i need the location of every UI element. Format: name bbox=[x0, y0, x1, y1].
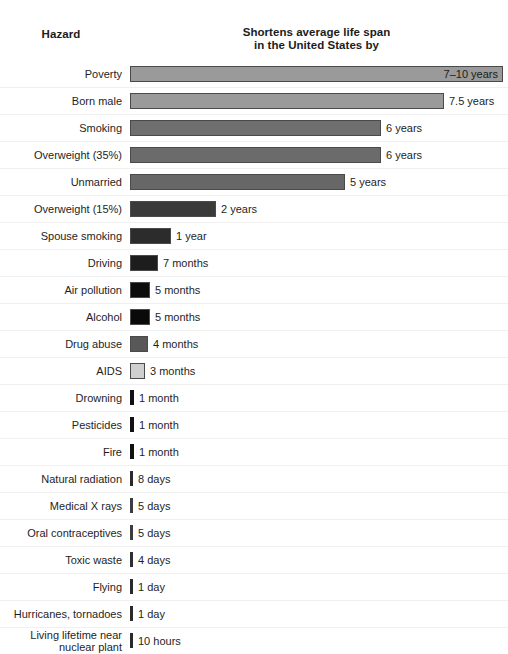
table-row: Fire1 month bbox=[0, 438, 508, 465]
hazard-label: Smoking bbox=[0, 114, 122, 141]
hazard-label: AIDS bbox=[0, 357, 122, 384]
bar-container: 7 months bbox=[130, 249, 208, 276]
bar-container: 1 day bbox=[130, 573, 165, 600]
bar-value-label: 1 day bbox=[138, 608, 165, 620]
chart-rows: Poverty7–10 yearsBorn male7.5 yearsSmoki… bbox=[0, 60, 508, 654]
bar bbox=[130, 363, 145, 379]
bar bbox=[130, 93, 444, 109]
hazard-label: Spouse smoking bbox=[0, 222, 122, 249]
bar-container: 5 days bbox=[130, 492, 170, 519]
bar-value-label: 8 days bbox=[138, 473, 170, 485]
bar-value-label: 6 years bbox=[386, 149, 422, 161]
bar-container: 1 month bbox=[130, 438, 179, 465]
bar bbox=[130, 471, 133, 486]
bar-container: 3 months bbox=[130, 357, 195, 384]
bar-value-label: 7–10 years bbox=[444, 68, 498, 80]
hazard-label: Living lifetime nearnuclear plant bbox=[0, 627, 122, 654]
hazard-label: Born male bbox=[0, 87, 122, 114]
hazard-label: Driving bbox=[0, 249, 122, 276]
bar bbox=[130, 579, 133, 594]
bar-value-label: 3 months bbox=[150, 365, 195, 377]
table-row: Drug abuse4 months bbox=[0, 330, 508, 357]
hazard-label: Pesticides bbox=[0, 411, 122, 438]
bar-container: 5 months bbox=[130, 303, 200, 330]
bar bbox=[130, 255, 158, 271]
bar-value-label: 5 days bbox=[138, 500, 170, 512]
bar bbox=[130, 444, 134, 459]
bar-value-label: 5 months bbox=[155, 311, 200, 323]
hazard-label: Unmarried bbox=[0, 168, 122, 195]
bar-container: 5 years bbox=[130, 168, 386, 195]
bar bbox=[130, 282, 150, 298]
bar-value-label: 1 day bbox=[138, 581, 165, 593]
bar-container: 5 months bbox=[130, 276, 200, 303]
bar-container: 4 days bbox=[130, 546, 170, 573]
hazard-label: Alcohol bbox=[0, 303, 122, 330]
bar bbox=[130, 525, 133, 540]
table-row: Overweight (35%)6 years bbox=[0, 141, 508, 168]
column-header-value-line1: Shortens average life span bbox=[130, 26, 503, 39]
bar-container: 7–10 years bbox=[130, 60, 503, 87]
bar-value-label: 7.5 years bbox=[449, 95, 494, 107]
bar-value-label: 5 months bbox=[155, 284, 200, 296]
bar bbox=[130, 174, 345, 190]
bar bbox=[130, 606, 133, 621]
table-row: AIDS3 months bbox=[0, 357, 508, 384]
bar bbox=[130, 552, 133, 567]
table-row: Driving7 months bbox=[0, 249, 508, 276]
table-row: Born male7.5 years bbox=[0, 87, 508, 114]
hazard-label: Air pollution bbox=[0, 276, 122, 303]
column-header-value: Shortens average life span in the United… bbox=[130, 26, 503, 52]
table-row: Drowning1 month bbox=[0, 384, 508, 411]
table-row: Poverty7–10 years bbox=[0, 60, 508, 87]
bar-container: 2 years bbox=[130, 195, 257, 222]
bar-container: 6 years bbox=[130, 141, 422, 168]
hazard-label: Flying bbox=[0, 573, 122, 600]
bar-container: 4 months bbox=[130, 330, 198, 357]
bar bbox=[130, 201, 216, 217]
hazard-label: Overweight (35%) bbox=[0, 141, 122, 168]
bar-container: 5 days bbox=[130, 519, 170, 546]
hazard-label: Drug abuse bbox=[0, 330, 122, 357]
table-row: Pesticides1 month bbox=[0, 411, 508, 438]
bar-value-label: 6 years bbox=[386, 122, 422, 134]
bar bbox=[130, 498, 133, 513]
bar-value-label: 7 months bbox=[163, 257, 208, 269]
table-row: Flying1 day bbox=[0, 573, 508, 600]
bar-value-label: 2 years bbox=[221, 203, 257, 215]
hazard-label: Fire bbox=[0, 438, 122, 465]
bar bbox=[130, 147, 381, 163]
bar-value-label: 1 month bbox=[139, 392, 179, 404]
hazard-label: Medical X rays bbox=[0, 492, 122, 519]
bar-value-label: 10 hours bbox=[138, 635, 181, 647]
bar-value-label: 1 year bbox=[176, 230, 207, 242]
table-row: Alcohol5 months bbox=[0, 303, 508, 330]
bar-value-label: 4 months bbox=[153, 338, 198, 350]
column-header-value-line2: in the United States by bbox=[130, 39, 503, 52]
bar-value-label: 1 month bbox=[139, 446, 179, 458]
bar bbox=[130, 309, 150, 325]
column-header-hazard: Hazard bbox=[0, 28, 122, 40]
table-row: Smoking6 years bbox=[0, 114, 508, 141]
table-row: Overweight (15%)2 years bbox=[0, 195, 508, 222]
hazard-label: Toxic waste bbox=[0, 546, 122, 573]
bar-container: 1 year bbox=[130, 222, 207, 249]
bar-container: 1 month bbox=[130, 384, 179, 411]
bar bbox=[130, 228, 171, 244]
table-row: Air pollution5 months bbox=[0, 276, 508, 303]
table-row: Natural radiation8 days bbox=[0, 465, 508, 492]
bar-value-label: 5 days bbox=[138, 527, 170, 539]
bar-container: 6 years bbox=[130, 114, 422, 141]
hazard-label-line1: Living lifetime near bbox=[30, 629, 122, 641]
bar bbox=[130, 633, 133, 648]
table-row: Spouse smoking1 year bbox=[0, 222, 508, 249]
bar-container: 1 day bbox=[130, 600, 165, 627]
hazard-label: Poverty bbox=[0, 60, 122, 87]
table-row: Living lifetime nearnuclear plant10 hour… bbox=[0, 627, 508, 654]
table-row: Oral contraceptives5 days bbox=[0, 519, 508, 546]
hazard-label: Drowning bbox=[0, 384, 122, 411]
chart-header: Hazard Shortens average life span in the… bbox=[0, 28, 508, 56]
bar bbox=[130, 390, 134, 405]
hazard-label: Natural radiation bbox=[0, 465, 122, 492]
